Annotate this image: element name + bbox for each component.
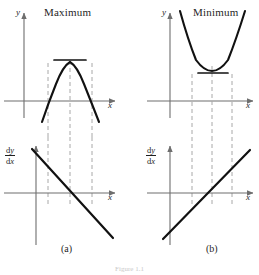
panel-b-title: Minimum <box>193 7 238 18</box>
figure-canvas <box>0 0 259 275</box>
panel-a-derivative-denominator: dx <box>5 157 15 166</box>
panel-a-derivative-numerator: dy <box>5 146 15 155</box>
panel-a-top-x-axis-label: x <box>108 101 112 110</box>
panel-b-bottom-chart <box>147 137 253 245</box>
panel-b-derivative-numerator: dy <box>146 146 156 155</box>
panel-b-bottom-x-axis-label: x <box>246 193 250 202</box>
panel-a-bottom-x-axis-label: x <box>108 193 112 202</box>
figure-caption: Figure 1.1 <box>0 265 259 273</box>
panel-b-derivative-denominator: dx <box>146 157 156 166</box>
panel-a-tag: (a) <box>61 244 72 254</box>
panel-a-top-y-axis-label: y <box>16 8 20 17</box>
panel-b-tag: (b) <box>206 244 218 254</box>
panel-b-top-chart <box>147 11 253 137</box>
panel-a-top-chart <box>4 13 115 137</box>
panel-b-minimum-curve <box>180 11 245 71</box>
panel-a-title: Maximum <box>44 7 91 18</box>
panel-b-top-x-axis-label: x <box>246 101 250 110</box>
panel-b-derivative-line <box>163 150 250 239</box>
panel-a-bottom-chart <box>4 137 115 245</box>
panel-b-top-y-axis-label: y <box>162 8 166 17</box>
figure-root: Maximum y x dy dx x (a) Minimum y x dy d… <box>0 0 259 275</box>
panel-b-derivative-label: dy dx <box>146 146 156 167</box>
panel-a-derivative-label: dy dx <box>5 146 15 167</box>
